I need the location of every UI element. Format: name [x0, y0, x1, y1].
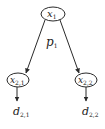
left-child-subscript: 2,1 — [15, 79, 25, 86]
right-output-label: d2,2 — [82, 105, 99, 118]
edge-root-left — [26, 20, 45, 73]
left-output-label: d2,1 — [13, 105, 30, 118]
right-child-node: x2,2 — [75, 73, 97, 87]
root-node: x1 — [41, 7, 65, 21]
root-node-subscript: 1 — [53, 13, 57, 20]
edge-label: p1 — [46, 35, 58, 49]
left-output-base: d — [13, 105, 20, 118]
right-child-subscript: 2,2 — [83, 79, 93, 86]
left-output-subscript: 2,1 — [20, 111, 30, 118]
edge-label-subscript: 1 — [54, 42, 58, 49]
right-output-subscript: 2,2 — [89, 111, 99, 118]
left-child-node: x2,1 — [7, 73, 29, 87]
edge-root-right — [60, 20, 79, 73]
right-output-base: d — [82, 105, 89, 118]
tree-diagram: x1 p1 x2,1 x2,2 d2,1 d2,2 — [0, 0, 105, 129]
